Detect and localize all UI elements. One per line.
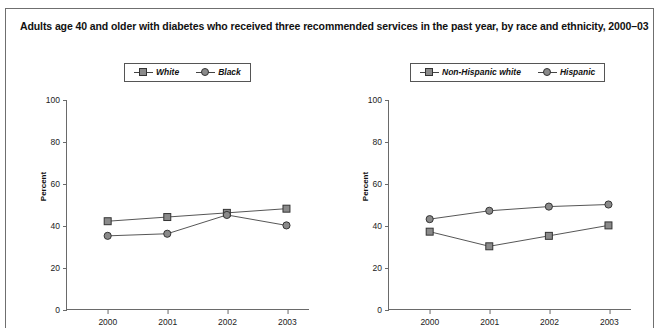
x-tick-label: 2002 [540,309,559,327]
legend-label-non-hispanic-white: Non-Hispanic white [442,67,521,77]
legend-label-white: White [156,67,179,77]
series-canvas-race [67,100,309,309]
data-line-black [108,215,287,236]
data-point-marker [605,201,612,208]
data-point-marker [164,230,171,237]
x-tick-label: 2003 [278,309,297,327]
data-point-marker [426,228,433,235]
data-point-marker [486,243,493,250]
series-canvas-ethnicity [389,100,631,309]
y-tick-label: 40 [23,221,67,231]
data-point-marker [104,232,111,239]
x-tick-label: 2001 [480,309,499,327]
circle-marker-icon [538,68,557,77]
y-tick-label: 0 [23,305,67,315]
legend-entry-white: White [134,67,179,77]
data-point-marker [605,222,612,229]
x-tick-label: 2000 [98,309,117,327]
square-marker-icon [134,68,153,77]
x-tick-label: 2001 [158,309,177,327]
y-tick-label: 100 [345,95,389,105]
figure-title: Adults age 40 and older with diabetes wh… [20,20,649,32]
data-point-marker [426,216,433,223]
legend-label-black: Black [218,67,241,77]
data-point-marker [545,232,552,239]
data-point-marker [104,218,111,225]
figure-frame: Adults age 40 and older with diabetes wh… [5,8,654,328]
y-tick-label: 60 [23,179,67,189]
chart-panel-ethnicity: Non-Hispanic white Hispanic Percent 0204… [336,55,654,329]
x-tick-label: 2002 [218,309,237,327]
y-tick-label: 40 [345,221,389,231]
x-tick-label: 2003 [600,309,619,327]
y-tick-label: 20 [345,263,389,273]
data-point-marker [164,214,171,221]
y-tick-label: 80 [345,137,389,147]
data-line-white [108,209,287,222]
square-marker-icon [420,68,439,77]
y-tick-label: 0 [345,305,389,315]
legend-label-hispanic: Hispanic [560,67,595,77]
data-point-marker [223,211,230,218]
data-point-marker [283,222,290,229]
plot-area-ethnicity: Percent 020406080100 2000200120022003 [388,100,631,310]
chart-legend-race: White Black [124,63,251,82]
circle-marker-icon [196,68,215,77]
chart-panel-race: White Black Percent 020406080100 2000200… [14,55,332,329]
legend-entry-hispanic: Hispanic [538,67,595,77]
data-line-non-hispanic-white [430,225,609,246]
y-tick-label: 20 [23,263,67,273]
legend-entry-non-hispanic-white: Non-Hispanic white [420,67,521,77]
data-line-hispanic [430,205,609,220]
data-point-marker [545,203,552,210]
y-tick-label: 60 [345,179,389,189]
x-tick-label: 2000 [420,309,439,327]
data-point-marker [283,205,290,212]
chart-legend-ethnicity: Non-Hispanic white Hispanic [410,63,605,82]
data-point-marker [486,207,493,214]
plot-area-race: Percent 020406080100 2000200120022003 [66,100,309,310]
y-tick-label: 80 [23,137,67,147]
y-tick-label: 100 [23,95,67,105]
legend-entry-black: Black [196,67,241,77]
